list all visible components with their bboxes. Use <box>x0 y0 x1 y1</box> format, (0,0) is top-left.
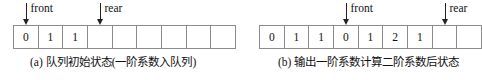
queue-array-a: 0 1 1 <box>13 25 236 49</box>
queue-cell <box>432 26 457 49</box>
panel-a: front rear 0 1 1 (a) <box>0 0 240 80</box>
queue-cell <box>161 26 186 49</box>
queue-cell: 1 <box>407 26 432 49</box>
queue-row-b: 0 1 1 0 1 2 1 <box>260 26 482 49</box>
queue-cell <box>87 26 112 49</box>
queue-cell: 1 <box>358 26 383 49</box>
queue-cell: 0 <box>14 26 39 49</box>
queue-cell <box>112 26 137 49</box>
queue-cell: 1 <box>63 26 88 49</box>
queue-cell <box>186 26 211 49</box>
panel-b: front rear 0 1 1 0 1 2 1 <box>240 0 481 80</box>
queue-cell: 1 <box>309 26 334 49</box>
pointer-label-rear: rear <box>105 2 123 15</box>
queue-row-a: 0 1 1 <box>14 26 236 49</box>
queue-cell: 1 <box>38 26 63 49</box>
queue-cell: 0 <box>333 26 358 49</box>
queue-cell: 1 <box>284 26 309 49</box>
queue-array-b: 0 1 1 0 1 2 1 <box>259 25 482 49</box>
caption-a: (a) 队列初始状态(一阶系数入队列) <box>30 54 196 70</box>
queue-cell <box>457 26 482 49</box>
pointer-label-front: front <box>31 2 53 15</box>
queue-cell: 2 <box>383 26 408 49</box>
queue-cell: 0 <box>260 26 285 49</box>
queue-cell <box>211 26 236 49</box>
queue-cell <box>137 26 162 49</box>
pointer-label-front: front <box>351 2 373 15</box>
caption-b: (b) 输出一阶系数计算二阶系数后状态 <box>278 54 459 70</box>
pointer-label-rear: rear <box>450 2 468 15</box>
